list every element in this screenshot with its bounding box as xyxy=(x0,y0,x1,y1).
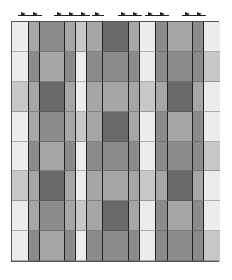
arrow-marker-icon xyxy=(92,12,104,17)
grid-cell xyxy=(29,112,40,142)
grid-cell xyxy=(103,52,129,82)
grid-cell xyxy=(65,22,76,52)
drawdown-grid xyxy=(11,21,219,262)
grid-cell xyxy=(103,201,129,231)
grid-cell xyxy=(29,231,40,261)
grid-cell xyxy=(156,112,168,142)
grid-cell xyxy=(103,22,129,52)
grid-cell xyxy=(12,231,29,261)
grid-cell xyxy=(65,201,76,231)
grid-cell xyxy=(204,22,220,52)
grid-cell xyxy=(40,52,65,82)
arrow-marker-icon xyxy=(182,12,194,17)
grid-cell xyxy=(168,22,193,52)
grid-cell xyxy=(140,142,156,172)
grid-cell xyxy=(204,171,220,201)
grid-cell xyxy=(140,171,156,201)
grid-cell xyxy=(103,142,129,172)
grid-cell xyxy=(76,201,87,231)
grid-cell xyxy=(29,22,40,52)
arrow-marker-icon xyxy=(118,12,130,17)
grid-cell xyxy=(140,22,156,52)
grid-cell xyxy=(65,52,76,82)
grid-cell xyxy=(103,171,129,201)
grid-cell xyxy=(193,22,204,52)
grid-cell xyxy=(12,82,29,112)
grid-cell xyxy=(204,201,220,231)
grid-cell xyxy=(40,22,65,52)
grid-cell xyxy=(204,82,220,112)
grid-cell xyxy=(40,142,65,172)
grid-cell xyxy=(156,142,168,172)
arrow-marker-icon xyxy=(30,12,42,17)
grid-cell xyxy=(129,142,140,172)
grid-cell xyxy=(65,171,76,201)
grid-cell xyxy=(40,171,65,201)
grid-cell xyxy=(12,22,29,52)
grid-cell xyxy=(12,52,29,82)
arrow-marker-icon xyxy=(194,12,206,17)
grid-cell xyxy=(40,231,65,261)
grid-cell xyxy=(87,52,103,82)
grid-cell xyxy=(12,142,29,172)
grid-cell xyxy=(156,171,168,201)
grid-cell xyxy=(29,171,40,201)
grid-cell xyxy=(76,22,87,52)
grid-cell xyxy=(204,52,220,82)
grid-cell xyxy=(12,171,29,201)
grid-cell xyxy=(40,112,65,142)
grid-cell xyxy=(29,52,40,82)
grid-cell xyxy=(87,112,103,142)
grid-cell xyxy=(76,231,87,261)
grid-cell xyxy=(76,52,87,82)
grid-cell xyxy=(140,201,156,231)
grid-cell xyxy=(156,82,168,112)
grid-cell xyxy=(204,231,220,261)
grid-cell xyxy=(168,82,193,112)
grid-cell xyxy=(40,201,65,231)
grid-cell xyxy=(140,231,156,261)
grid-cell xyxy=(65,112,76,142)
grid-cell xyxy=(76,82,87,112)
grid-cell xyxy=(65,82,76,112)
grid-cell xyxy=(87,22,103,52)
arrow-marker-icon xyxy=(157,12,169,17)
grid-cell xyxy=(103,231,129,261)
arrow-marker-icon xyxy=(130,12,142,17)
grid-cell xyxy=(156,231,168,261)
grid-cell xyxy=(129,112,140,142)
grid-cell xyxy=(129,52,140,82)
grid-cell xyxy=(193,231,204,261)
grid-cell xyxy=(129,22,140,52)
grid-cell xyxy=(129,82,140,112)
grid-cell xyxy=(76,171,87,201)
grid-cell xyxy=(12,112,29,142)
grid-cell xyxy=(129,201,140,231)
grid-cell xyxy=(87,201,103,231)
thread-markers xyxy=(0,0,232,21)
grid-cell xyxy=(168,112,193,142)
grid-cell xyxy=(87,142,103,172)
grid-cell xyxy=(87,231,103,261)
grid-cell xyxy=(193,52,204,82)
arrow-marker-icon xyxy=(66,12,78,17)
grid-cell xyxy=(140,82,156,112)
grid-cell xyxy=(87,171,103,201)
grid-cell xyxy=(103,112,129,142)
grid-cell xyxy=(193,112,204,142)
grid-cell xyxy=(40,82,65,112)
grid-cell xyxy=(193,82,204,112)
grid-cell xyxy=(87,82,103,112)
arrow-marker-icon xyxy=(145,12,157,17)
grid-cell xyxy=(129,231,140,261)
grid-cell xyxy=(193,171,204,201)
grid-cell xyxy=(168,142,193,172)
grid-cell xyxy=(76,112,87,142)
arrow-marker-icon xyxy=(78,12,90,17)
grid-cell xyxy=(29,82,40,112)
grid-cell xyxy=(103,82,129,112)
grid-cell xyxy=(168,231,193,261)
grid-cell xyxy=(129,171,140,201)
grid-cell xyxy=(168,171,193,201)
grid-cell xyxy=(193,201,204,231)
